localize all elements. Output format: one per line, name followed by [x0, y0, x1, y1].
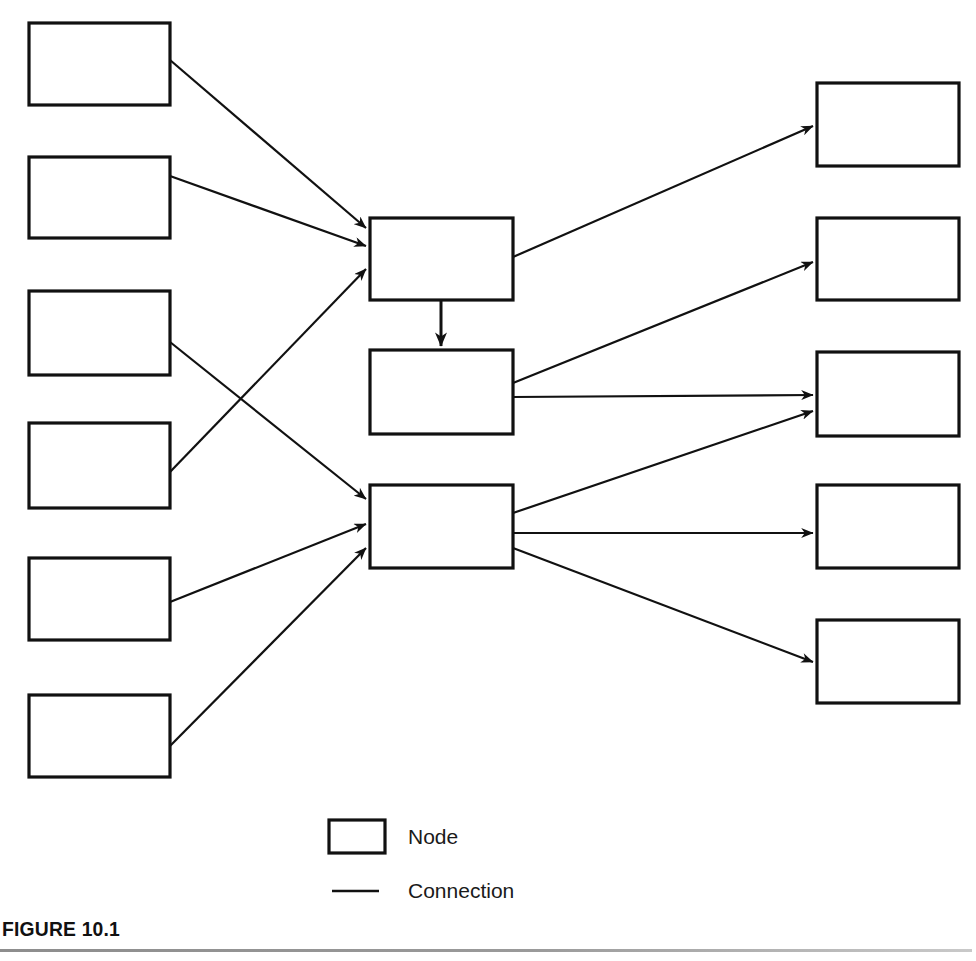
node-connection-diagram: Node Connection: [0, 0, 976, 961]
figure-container: Node Connection FIGURE 10.1: [0, 0, 976, 961]
caption-rule: [0, 949, 972, 952]
node-M3[interactable]: [370, 485, 513, 568]
caption-block: FIGURE 10.1: [0, 916, 976, 952]
middle-node-column: [370, 218, 513, 568]
node-L1[interactable]: [29, 23, 170, 105]
node-R5[interactable]: [817, 620, 959, 703]
node-R2[interactable]: [817, 218, 959, 300]
node-L6[interactable]: [29, 695, 170, 777]
connection-M2-R3: [513, 395, 813, 397]
connection-M2-R2: [513, 262, 813, 383]
node-R1[interactable]: [817, 83, 959, 166]
connection-L1-M1: [170, 60, 366, 228]
figure-caption: FIGURE 10.1: [2, 916, 898, 942]
right-node-column: [817, 83, 959, 703]
node-L5[interactable]: [29, 558, 170, 640]
connection-M3-R5: [513, 548, 813, 662]
node-M2[interactable]: [370, 350, 513, 434]
node-M1[interactable]: [370, 218, 513, 300]
connection-L6-M3: [170, 548, 366, 746]
node-L4[interactable]: [29, 423, 170, 508]
connection-M1-R1: [513, 126, 813, 257]
node-L3[interactable]: [29, 291, 170, 375]
node-R4[interactable]: [817, 485, 959, 568]
left-node-column: [29, 23, 170, 777]
connection-M3-R3: [513, 411, 813, 513]
connection-L4-M1: [170, 269, 366, 472]
legend-connection-label: Connection: [408, 879, 514, 902]
connection-L5-M3: [170, 524, 366, 602]
connection-L3-M3: [170, 342, 366, 499]
node-L2[interactable]: [29, 157, 170, 238]
node-R3[interactable]: [817, 352, 959, 436]
legend-node-swatch: [329, 820, 385, 853]
connection-L2-M1: [170, 176, 366, 246]
legend-node-label: Node: [408, 825, 458, 848]
legend: Node Connection: [329, 820, 514, 902]
